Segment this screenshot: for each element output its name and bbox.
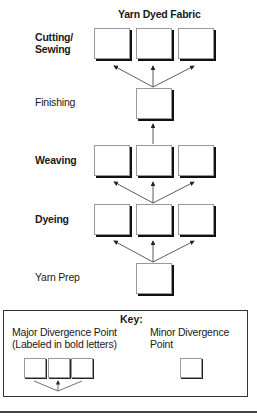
weaving-box-3 [178, 145, 214, 176]
weaving-box-1 [94, 145, 130, 176]
bottom-divider [0, 411, 257, 413]
key-minor-box [180, 358, 202, 378]
cutting-box-2 [136, 28, 172, 59]
weaving-box-2 [136, 145, 172, 176]
dyeing-box-2 [136, 204, 172, 235]
cutting-box-1 [94, 28, 130, 59]
legend-key: Key: Major Divergence Point (Labeled in … [3, 310, 248, 397]
key-arrows [4, 311, 247, 396]
dyeing-box-1 [94, 204, 130, 235]
dyeing-box-3 [178, 204, 214, 235]
yarn-prep-box [136, 263, 172, 294]
cutting-box-3 [178, 28, 214, 59]
finishing-box [136, 88, 172, 119]
